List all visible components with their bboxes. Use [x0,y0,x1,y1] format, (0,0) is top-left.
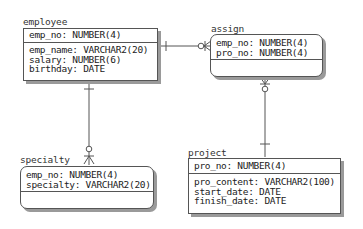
entity-assign[interactable]: emp_no: NUMBER(4) pro_no: NUMBER(4) [210,34,323,77]
key-attribute: pro_no: NUMBER(4) [216,48,318,58]
attribute-section [21,192,153,193]
zero-circle-icon [86,146,92,152]
attribute-section: pro_content: VARCHAR2(100) start_date: D… [189,174,340,206]
primary-key-section: pro_no: NUMBER(4) [189,159,340,174]
entity-title-specialty: specialty [20,155,70,165]
attribute-section [211,60,322,61]
primary-key-section: emp_no: NUMBER(4) [24,29,157,43]
entity-employee[interactable]: emp_no: NUMBER(4) emp_name: VARCHAR2(20)… [23,28,158,81]
entity-title-employee: employee [23,17,67,27]
attribute: finish_date: DATE [194,196,336,206]
zero-circle-icon [198,43,204,49]
primary-key-section: emp_no: NUMBER(4) pro_no: NUMBER(4) [211,35,322,60]
entity-title-project: project [188,148,227,158]
key-attribute: emp_no: NUMBER(4) [29,30,153,40]
employee-specialty-relationship [84,83,94,165]
key-attribute: specialty: VARCHAR2(20) [26,180,149,190]
attribute: birthday: DATE [29,64,153,74]
entity-project[interactable]: pro_no: NUMBER(4) pro_content: VARCHAR2(… [188,158,341,214]
attribute-section: emp_name: VARCHAR2(20) salary: NUMBER(6)… [24,43,157,74]
crows-foot-icon [260,77,265,84]
entity-specialty[interactable]: emp_no: NUMBER(4) specialty: VARCHAR2(20… [20,166,154,209]
key-attribute: pro_no: NUMBER(4) [194,161,336,171]
zero-circle-icon [262,86,268,92]
crows-foot-icon [84,156,89,164]
entity-title-assign: assign [211,24,244,34]
project-assign-relationship [260,77,270,157]
employee-assign-relationship [160,41,211,51]
primary-key-section: emp_no: NUMBER(4) specialty: VARCHAR2(20… [21,167,153,192]
